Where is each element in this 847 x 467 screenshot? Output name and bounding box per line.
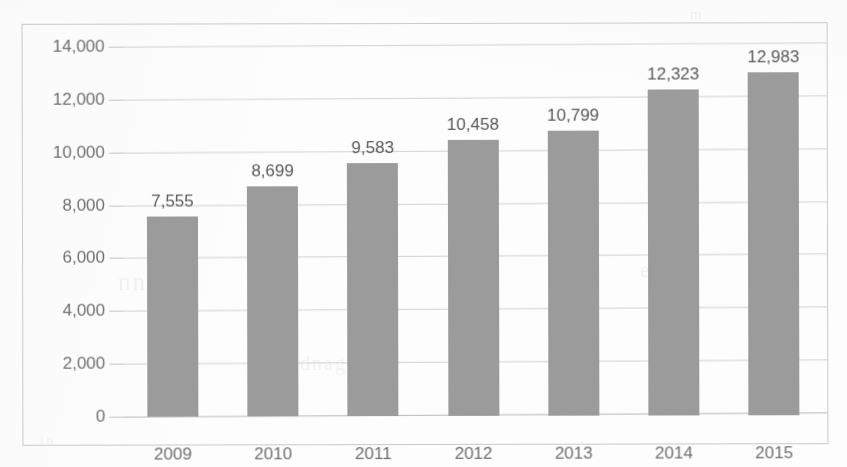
- y-axis-label: 10,000: [0, 142, 105, 162]
- x-axis-label: 2010: [218, 444, 328, 464]
- y-axis-tick: [109, 417, 124, 418]
- y-axis-tick: [109, 258, 124, 259]
- bar[interactable]: [147, 217, 198, 417]
- scanned-page: nnn e b dnag e a m in 02,0004,0006,0008,…: [0, 0, 847, 467]
- y-axis-tick: [109, 152, 124, 153]
- y-axis-tick: [109, 47, 124, 48]
- bar-value-label: 9,583: [318, 138, 428, 158]
- bar-value-label: 10,799: [518, 105, 628, 125]
- y-axis-label: 6,000: [0, 248, 105, 268]
- y-axis-label: 12,000: [0, 90, 105, 110]
- y-axis-label: 8,000: [0, 195, 105, 215]
- bar-value-label: 8,699: [218, 161, 328, 181]
- y-axis-tick: [109, 364, 124, 365]
- x-axis-label: 2013: [519, 444, 629, 464]
- gridline: [123, 95, 827, 100]
- bar[interactable]: [548, 130, 600, 415]
- bar[interactable]: [247, 186, 298, 416]
- x-axis-label: 2015: [719, 443, 829, 463]
- y-axis-label: 4,000: [0, 301, 105, 321]
- y-axis-tick: [109, 99, 124, 100]
- bar[interactable]: [347, 163, 399, 416]
- bar[interactable]: [447, 139, 499, 415]
- chart-frame: 02,0004,0006,0008,00010,00012,00014,0007…: [22, 22, 829, 446]
- y-axis-tick: [109, 311, 124, 312]
- show-through-artifact: m: [690, 6, 706, 23]
- bar[interactable]: [648, 90, 700, 416]
- y-axis-label: 0: [0, 407, 105, 427]
- x-axis-label: 2014: [619, 443, 729, 463]
- bar-value-label: 7,555: [117, 192, 227, 212]
- bar-value-label: 10,458: [418, 114, 528, 134]
- bar[interactable]: [748, 72, 800, 415]
- x-axis-label: 2011: [318, 444, 428, 464]
- bar-value-label: 12,983: [718, 47, 828, 67]
- x-axis-label: 2009: [118, 444, 228, 464]
- x-axis-label: 2012: [419, 444, 529, 464]
- plot-area: 02,0004,0006,0008,00010,00012,00014,0007…: [123, 45, 828, 416]
- bar-value-label: 12,323: [618, 65, 728, 85]
- y-axis-label: 14,000: [0, 37, 105, 57]
- y-axis-label: 2,000: [0, 354, 105, 374]
